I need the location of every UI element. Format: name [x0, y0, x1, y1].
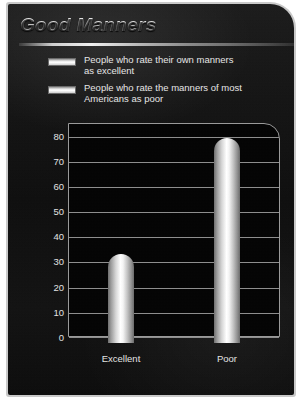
bars-layer: [68, 123, 280, 343]
y-axis-tick-label: 10: [20, 306, 64, 317]
page-title: Good Manners: [20, 14, 157, 36]
y-axis-tick-label: 20: [20, 281, 64, 292]
legend-item-label: People who rate their own manners as exc…: [84, 54, 233, 76]
y-axis-tick-label: 40: [20, 231, 64, 242]
x-axis-tick-label: Poor: [217, 353, 237, 364]
y-axis-tick-label: 80: [20, 130, 64, 141]
title-divider: [19, 43, 294, 46]
y-axis-tick-label: 50: [20, 206, 64, 217]
y-axis-tick-label: 30: [20, 256, 64, 267]
x-axis-tick-label: Excellent: [102, 353, 141, 364]
legend-item: People who rate their own manners as exc…: [48, 54, 288, 76]
y-axis-tick-label: 0: [20, 332, 64, 343]
y-axis: 01020304050607080: [20, 123, 64, 337]
bar: [108, 254, 134, 343]
y-axis-tick-label: 70: [20, 155, 64, 166]
y-axis-tick-label: 60: [20, 180, 64, 191]
legend-swatch-icon: [48, 58, 76, 66]
legend-item-label: People who rate the manners of most Amer…: [84, 82, 242, 104]
bar: [214, 138, 240, 343]
legend-item: People who rate the manners of most Amer…: [48, 82, 288, 104]
bar-chart: 01020304050607080 ExcellentPoor: [20, 117, 284, 379]
legend-swatch-icon: [48, 86, 76, 94]
infographic-container: Good Manners People who rate their own m…: [0, 0, 307, 414]
chart-legend: People who rate their own manners as exc…: [48, 54, 288, 110]
infographic-panel: Good Manners People who rate their own m…: [8, 4, 294, 395]
